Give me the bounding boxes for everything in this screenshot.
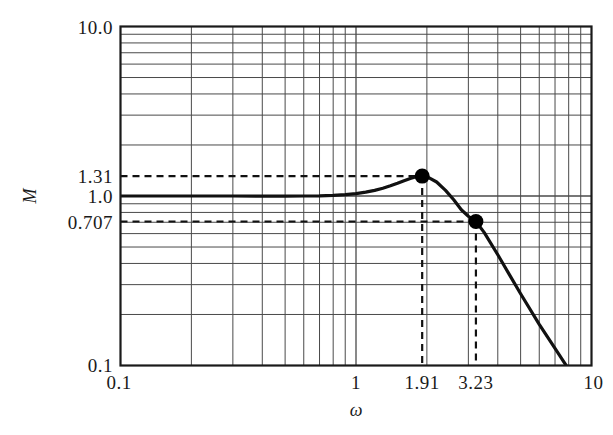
y-axis-title: M: [20, 188, 40, 205]
y-tick-label-1-0: 1.0: [88, 186, 113, 207]
y-tick-label-0-707: 0.707: [68, 212, 113, 233]
log-log-magnitude-chart: 0.111.913.2310 10.01.311.00.7070.1 ω M: [0, 0, 613, 435]
y-tick-label-10-0: 10.0: [78, 17, 113, 38]
marker-resonant-peak: [415, 169, 430, 184]
y-tick-label-1-31: 1.31: [78, 166, 113, 187]
bode-magnitude-figure: 0.111.913.2310 10.01.311.00.7070.1 ω M: [0, 0, 613, 435]
marker-bandwidth-point: [468, 214, 483, 229]
x-tick-label-10: 10: [584, 372, 604, 393]
x-tick-label-3-23: 3.23: [458, 372, 493, 393]
x-tick-label-1-91: 1.91: [405, 372, 440, 393]
x-axis-title: ω: [350, 400, 363, 420]
y-tick-label-0-1: 0.1: [88, 355, 113, 376]
x-tick-label-1: 1: [351, 372, 361, 393]
